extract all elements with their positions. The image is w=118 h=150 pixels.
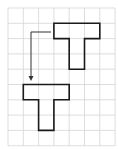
translated-t-shape bbox=[23, 85, 69, 131]
arrowhead-down-icon bbox=[29, 76, 34, 81]
translation-diagram bbox=[0, 0, 118, 150]
original-t-shape bbox=[54, 23, 100, 69]
